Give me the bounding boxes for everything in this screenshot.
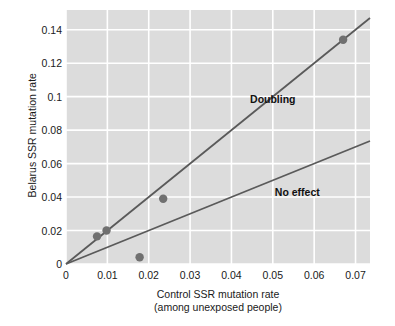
x-tick-label: 0.07 (336, 270, 376, 281)
data-point (159, 195, 167, 203)
y-axis-title: Belarus SSR mutation rate (27, 8, 38, 262)
x-tick-label: 0.03 (170, 270, 210, 281)
x-tick-label: 0.05 (253, 270, 293, 281)
x-tick-label: 0.01 (87, 270, 127, 281)
x-axis-title-line2: (among unexposed people) (66, 301, 370, 314)
data-point (135, 253, 143, 261)
data-point (102, 226, 110, 234)
scatter-chart-figure: DoublingNo effect 00.020.040.060.080.10.… (0, 0, 395, 326)
reference-line-doubling (66, 18, 370, 264)
x-axis-title-line1: Control SSR mutation rate (66, 288, 370, 301)
plot-area: DoublingNo effect (66, 10, 370, 264)
data-point (93, 232, 101, 240)
plot-svg (66, 10, 370, 264)
reference-lines (66, 18, 370, 264)
data-points (93, 36, 347, 262)
x-tick-label: 0.06 (294, 270, 334, 281)
annotation-no-effect: No effect (275, 186, 320, 198)
reference-line-no-effect (66, 141, 370, 264)
data-point (339, 36, 347, 44)
annotation-doubling: Doubling (250, 93, 296, 105)
x-tick-label: 0 (46, 270, 86, 281)
x-tick-label: 0.02 (129, 270, 169, 281)
gridlines (66, 10, 370, 264)
x-axis-title: Control SSR mutation rate (among unexpos… (66, 288, 370, 314)
x-axis-tick-labels: 00.010.020.030.040.050.060.07 (66, 270, 370, 284)
x-tick-label: 0.04 (211, 270, 251, 281)
